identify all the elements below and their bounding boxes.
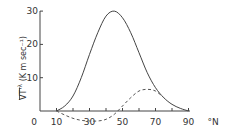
svg-text:VT'λ (K m sec⁻¹): VT'λ (K m sec⁻¹) (16, 36, 28, 100)
dashed-series-line (57, 89, 164, 121)
svg-text:30: 30 (84, 117, 96, 127)
svg-text:10: 10 (27, 73, 39, 83)
svg-text:0: 0 (31, 117, 37, 127)
svg-text:°N: °N (207, 117, 218, 127)
latitude-flux-chart: 102030 01030507090°N VT'λ (K m sec⁻¹) (0, 0, 228, 130)
y-label-main: VT' (19, 87, 28, 100)
svg-text:50: 50 (117, 117, 129, 127)
solid-series-line (57, 11, 189, 111)
svg-text:70: 70 (150, 117, 162, 127)
y-label-units: (K m sec⁻¹) (19, 36, 28, 81)
svg-text:20: 20 (27, 39, 39, 49)
svg-text:90: 90 (183, 117, 195, 127)
svg-text:10: 10 (51, 117, 63, 127)
svg-text:30: 30 (27, 6, 39, 16)
y-ticks: 102030 (27, 6, 43, 83)
y-axis-label: VT'λ (K m sec⁻¹) (16, 36, 28, 100)
